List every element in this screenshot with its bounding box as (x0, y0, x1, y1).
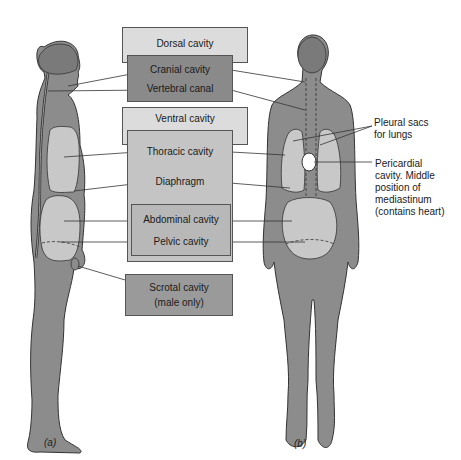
front-abdominal-cavity (282, 198, 337, 260)
thoracic-cavity-label: Thoracic cavity (127, 146, 233, 157)
pelvic-cavity-label: Pelvic cavity (131, 236, 231, 247)
pericardial-line-5: (contains heart) (375, 206, 444, 218)
abdominal-cavity-label: Abdominal cavity (131, 214, 231, 225)
scrotal-cavity-label: Scrotal cavity (125, 282, 233, 293)
ventral-cavity-label: Ventral cavity (122, 113, 248, 124)
side-abdominal-cavity (40, 196, 80, 261)
pericardial-line-1: Pericardial (375, 158, 444, 170)
scrotal-cavity-box (125, 274, 233, 316)
front-pericardial-cavity (302, 153, 316, 171)
front-cranial-cavity (298, 37, 326, 73)
pericardial-line-2: cavity. Middle (375, 170, 444, 182)
side-thoracic-cavity (47, 126, 79, 192)
caption-b: (b) (294, 438, 306, 449)
pleural-line-1: Pleural sacs (374, 117, 428, 129)
pericardial-cavity-label: Pericardial cavity. Middle position of m… (375, 158, 444, 218)
front-view-figure (263, 35, 359, 448)
dorsal-inner-box (127, 55, 233, 102)
cranial-cavity-label: Cranial cavity (127, 64, 233, 75)
pleural-sacs-label: Pleural sacs for lungs (374, 117, 428, 141)
caption-a: (a) (44, 437, 56, 448)
pericardial-line-3: position of (375, 182, 444, 194)
abdominopelvic-box (131, 204, 231, 256)
vertebral-canal-label: Vertebral canal (127, 83, 233, 94)
diaphragm-label: Diaphragm (127, 176, 233, 187)
pleural-line-2: for lungs (374, 129, 428, 141)
side-view-figure (28, 41, 85, 453)
scrotal-cavity-note: (male only) (125, 297, 233, 308)
pericardial-line-4: mediastinum (375, 194, 444, 206)
side-scrotal-cavity (71, 258, 79, 270)
dorsal-cavity-label: Dorsal cavity (122, 38, 248, 49)
